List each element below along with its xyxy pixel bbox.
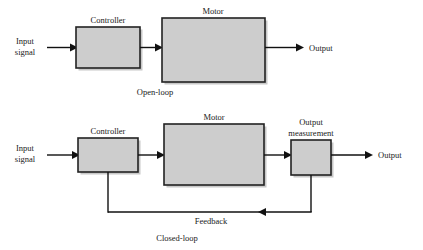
open-loop-caption: Open-loop [137,87,173,97]
open-loop-input-label-line2: signal [15,47,36,57]
closed-loop-input-label-line2: signal [15,154,36,164]
closed-loop-output-measurement-block [291,140,334,178]
closed-loop-motor-label: Motor [203,112,224,122]
closed-loop-caption: Closed-loop [156,233,198,243]
closed-loop-output-label: Output [378,150,402,160]
open-loop-output-label: Output [309,43,333,53]
closed-loop-output-measurement-label-line2: measurement [288,128,334,138]
open-loop-controller-label: Controller [91,15,126,25]
diagram-canvas: Controller Motor Input signal Output Ope… [0,0,423,250]
closed-loop-section: Controller Motor Output measurement Inpu… [15,112,402,243]
feedback-arrow-head [258,208,266,216]
closed-loop-output-arrow [331,151,373,159]
closed-loop-controller-label: Controller [91,126,126,136]
open-loop-output-arrow [265,44,304,52]
feedback-label: Feedback [195,216,228,226]
closed-loop-output-measurement-label-line1: Output [299,117,323,127]
open-loop-motor-block [162,18,268,85]
closed-loop-motor-block [164,124,267,188]
open-loop-input-arrow [47,44,78,52]
closed-loop-input-label-line1: Input [16,143,35,153]
closed-loop-controller-to-motor-arrow [138,151,165,159]
open-loop-input-label-line1: Input [16,36,35,46]
open-loop-motor-label: Motor [202,6,223,16]
open-loop-controller-block [76,27,143,71]
open-loop-controller-to-motor-arrow [140,44,163,52]
closed-loop-motor-to-measurement-arrow [264,151,292,159]
open-loop-section: Controller Motor Input signal Output Ope… [15,6,333,97]
control-block-diagram: Controller Motor Input signal Output Ope… [0,0,423,250]
closed-loop-controller-block [78,138,141,175]
closed-loop-input-arrow [47,151,80,159]
